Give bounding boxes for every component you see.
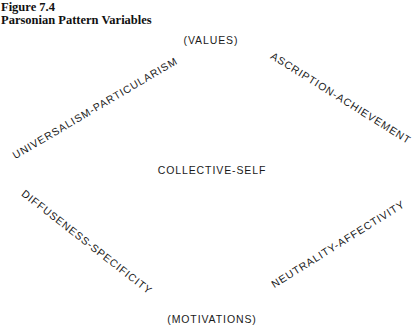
neutrality-affectivity-label: NEUTRALITY-AFFECTIVITY [270, 199, 407, 290]
collective-self-label: COLLECTIVE-SELF [158, 165, 267, 176]
diffuseness-specificity-label: DIFFUSENESS-SPECIFICITY [20, 188, 154, 296]
values-label: (VALUES) [184, 35, 239, 46]
universalism-particularism-label: UNIVERSALISM-PARTICULARISM [11, 55, 179, 160]
ascription-achievement-label: ASCRIPTION-ACHIEVEMENT [269, 50, 413, 145]
motivations-label: (MOTIVATIONS) [167, 314, 256, 325]
figure-title: Parsonian Pattern Variables [1, 14, 152, 27]
figure-heading: Figure 7.4 Parsonian Pattern Variables [1, 1, 152, 27]
